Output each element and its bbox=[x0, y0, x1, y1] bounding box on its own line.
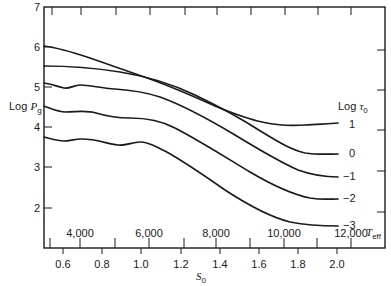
curve-label-minus-1: −1 bbox=[343, 171, 356, 182]
x-tick-label: 1.8 bbox=[283, 259, 313, 270]
x-tick-label: 1.0 bbox=[126, 259, 156, 270]
top-axis-ticks bbox=[52, 7, 351, 15]
curve-label-1: 1 bbox=[349, 119, 355, 130]
curve-log-tau-minus-1 bbox=[44, 83, 338, 177]
teff-bottom-ticks bbox=[50, 238, 351, 248]
teff-tick-label: 4,000 bbox=[60, 228, 100, 239]
x-tick-label: 2.0 bbox=[322, 259, 352, 270]
x-axis-ticks bbox=[63, 248, 337, 254]
y-tick-label: 4 bbox=[10, 122, 40, 133]
curve-label-minus-2: −2 bbox=[343, 193, 356, 204]
y-axis-title: Log Pg bbox=[9, 101, 42, 116]
curve-label-0: 0 bbox=[349, 148, 355, 159]
teff-tick-label: 10,000 bbox=[264, 228, 304, 239]
chart-canvas bbox=[0, 0, 391, 286]
y-tick-label: 3 bbox=[10, 162, 40, 173]
x-tick-label: 1.6 bbox=[244, 259, 274, 270]
teff-tick-label: 6,000 bbox=[129, 228, 169, 239]
x-tick-label: 0.6 bbox=[48, 259, 78, 270]
right-axis-ticks bbox=[377, 50, 385, 212]
y-tick-label: 6 bbox=[10, 42, 40, 53]
curve-log-tau-minus-3 bbox=[44, 137, 338, 226]
teff-axis-title: Teff bbox=[366, 227, 381, 242]
teff-tick-label: 8,000 bbox=[196, 228, 236, 239]
legend-title: Log τ0 bbox=[338, 101, 368, 116]
y-axis-ticks bbox=[44, 47, 52, 208]
x-tick-label: 1.2 bbox=[166, 259, 196, 270]
x-axis-title: S0 bbox=[196, 271, 206, 286]
x-tick-label: 1.4 bbox=[205, 259, 235, 270]
y-tick-label: 2 bbox=[10, 203, 40, 214]
y-tick-label: 5 bbox=[10, 82, 40, 93]
plot-frame bbox=[44, 7, 385, 248]
y-tick-label: 7 bbox=[10, 2, 40, 13]
x-tick-label: 0.8 bbox=[87, 259, 117, 270]
curve-label-minus-3: −3 bbox=[343, 220, 356, 231]
curve-log-tau-minus-2 bbox=[44, 106, 338, 199]
